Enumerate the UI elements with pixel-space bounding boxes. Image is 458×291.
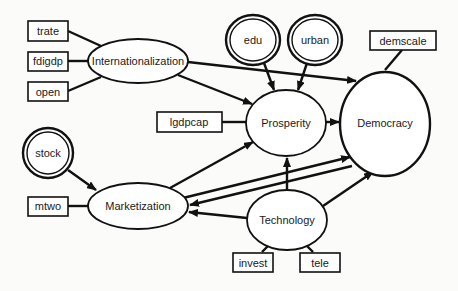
- label-tele: tele: [311, 257, 329, 269]
- label-mtwo: mtwo: [35, 200, 61, 212]
- edge-demscale-democracy: [385, 50, 402, 70]
- edge-open-internationalization: [68, 77, 101, 91]
- edge-trate-internationalization: [68, 31, 101, 46]
- label-stock: stock: [35, 147, 61, 159]
- label-open: open: [36, 86, 60, 98]
- label-democracy: Democracy: [357, 117, 413, 129]
- label-invest: invest: [239, 257, 268, 269]
- edge-stock-marketization: [68, 170, 96, 190]
- edge-technology-marketization: [189, 212, 247, 218]
- edge-internationalization-democracy: [188, 62, 356, 81]
- edge-edu-prosperity: [264, 63, 274, 90]
- label-technology: Technology: [259, 214, 315, 226]
- label-lgdpcap: lgdpcap: [170, 116, 209, 128]
- edge-technology-democracy: [323, 172, 373, 206]
- label-marketization: Marketization: [105, 200, 170, 212]
- label-prosperity: Prosperity: [261, 117, 311, 129]
- label-edu: edu: [244, 34, 262, 46]
- label-demscale: demscale: [379, 35, 426, 47]
- path-diagram: trate fdigdp open Internationalization l…: [0, 0, 458, 291]
- label-trate: trate: [37, 25, 59, 37]
- edge-marketization-democracy: [183, 157, 350, 198]
- edge-marketization-prosperity: [170, 142, 253, 188]
- label-internationalization: Internationalization: [92, 55, 184, 67]
- label-urban: urban: [301, 34, 329, 46]
- edge-internationalization-prosperity: [178, 75, 252, 104]
- label-fdigdp: fdigdp: [33, 55, 63, 67]
